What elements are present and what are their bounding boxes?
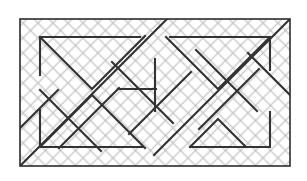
geometric-pattern-figure [0, 0, 307, 181]
figure-root [0, 0, 307, 181]
